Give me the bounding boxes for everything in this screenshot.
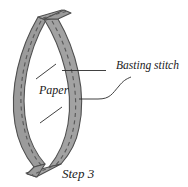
sewing-step-diagram: Basting stitch Paper Step 3 bbox=[0, 0, 188, 187]
leader-line-basting-lower bbox=[79, 77, 131, 99]
diagram-canvas bbox=[0, 0, 188, 187]
figure-caption-step: Step 3 bbox=[62, 167, 94, 180]
leader-line-paper-lower bbox=[40, 107, 62, 123]
label-basting-stitch: Basting stitch bbox=[116, 60, 179, 72]
fabric-tail-bottom bbox=[26, 164, 61, 177]
label-paper: Paper bbox=[39, 84, 68, 96]
fabric-tail-top bbox=[38, 10, 71, 20]
